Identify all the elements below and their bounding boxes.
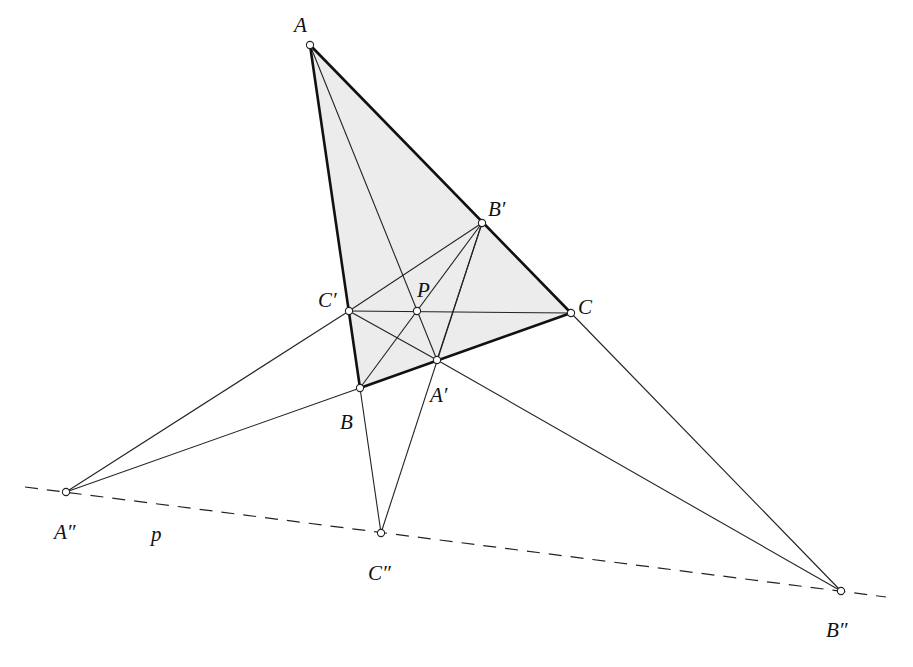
label-c: C bbox=[578, 297, 592, 318]
geometry-figure bbox=[0, 0, 913, 667]
label-b: B bbox=[340, 412, 353, 433]
label-c-double-prime: C″ bbox=[368, 563, 391, 584]
diagram-canvas: A B C A′ B′ C′ P A″ B″ C″ p bbox=[0, 0, 913, 667]
label-p-point: P bbox=[417, 280, 430, 301]
point-b-prime bbox=[478, 219, 485, 226]
label-a-prime: A′ bbox=[430, 385, 447, 406]
point-b bbox=[356, 384, 363, 391]
point-c bbox=[567, 309, 574, 316]
label-a-double-prime: A″ bbox=[54, 522, 76, 543]
point-a bbox=[306, 41, 313, 48]
label-a: A bbox=[294, 15, 307, 36]
point-a-double-prime bbox=[62, 488, 69, 495]
label-c-prime: C′ bbox=[318, 290, 337, 311]
point-c-prime bbox=[345, 307, 352, 314]
label-line-p: p bbox=[151, 524, 162, 545]
label-b-prime: B′ bbox=[488, 199, 505, 220]
point-c-double-prime bbox=[377, 529, 384, 536]
point-p bbox=[413, 307, 420, 314]
point-b-double-prime bbox=[837, 587, 844, 594]
label-b-double-prime: B″ bbox=[826, 620, 848, 641]
triangle-abc-fill bbox=[310, 45, 571, 388]
point-a-prime bbox=[433, 356, 440, 363]
